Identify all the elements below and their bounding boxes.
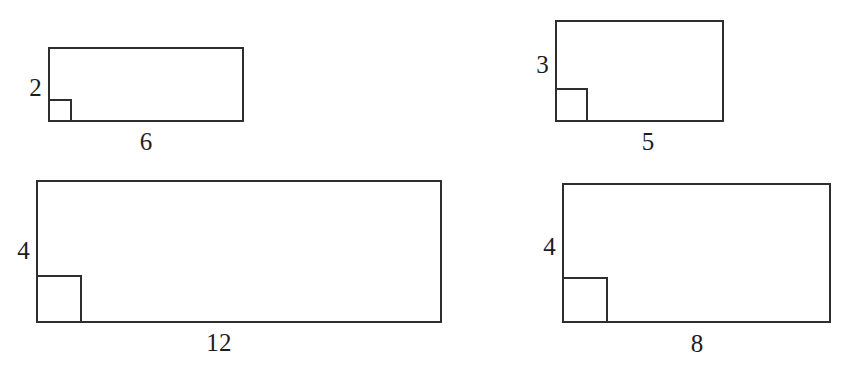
rectangle-4-height-label: 4 (532, 234, 556, 259)
rectangle-4-right-angle-icon (562, 277, 608, 323)
figure-canvas: 2 6 3 5 4 12 4 8 (0, 0, 853, 378)
rectangle-figure-4: 4 8 (0, 0, 853, 378)
rectangle-4-width-label: 8 (676, 331, 718, 356)
